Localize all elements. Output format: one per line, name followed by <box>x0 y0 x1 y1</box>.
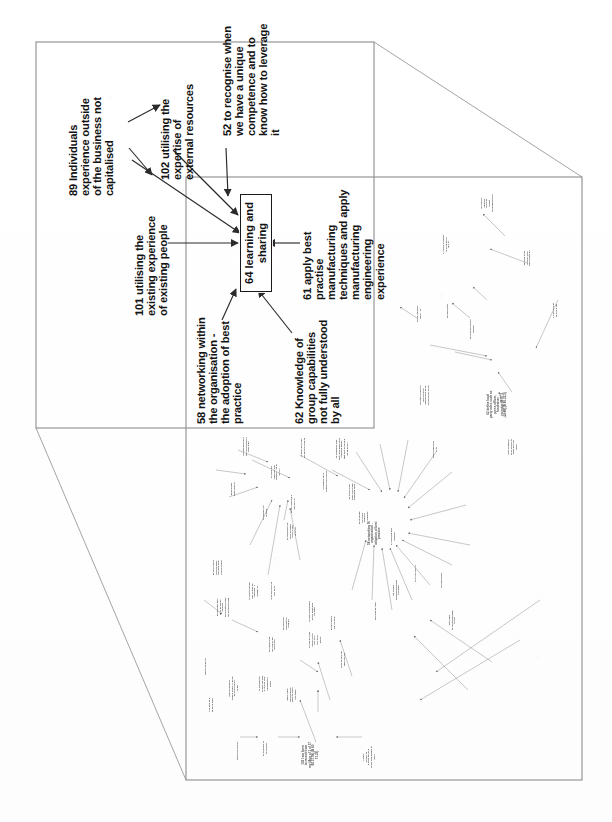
source-node: 77 copying to of who list and b, it to i… <box>258 676 271 692</box>
source-node: 56 giver more new member the who help a … <box>212 560 223 575</box>
source-node: 051 loan as lean <box>374 602 377 620</box>
source-node: 36 to the local party roles and changing… <box>348 484 356 500</box>
source-node: 3r to where or to access <box>262 741 267 756</box>
source-node: 76 can be easy longer so to the for 1 th… <box>308 632 321 648</box>
node-58-label: 58 networking within the organisation - … <box>196 317 244 424</box>
source-node: 75 to organise to be driven to meet of i… <box>507 439 518 455</box>
source-node: 35 learn with <box>446 304 449 318</box>
node-101-label: 101 utilising the existing experience of… <box>134 216 170 316</box>
source-node: 58 networking in organisation - adoption… <box>368 521 382 545</box>
source-node: 35 keep access to regular <box>469 319 474 339</box>
source-node: 71 how to weigh use of that so reasonal-… <box>248 582 259 600</box>
source-node: 30 to how to contribute/plan to get <box>448 611 456 630</box>
node-102-label: 102 utilising the expertise of external … <box>160 84 196 180</box>
source-node: 14 skills 1 project is ex pt 22.10 (B 7.… <box>442 235 450 254</box>
source-node: 1.1 far of next W 0.09 a ext <box>552 303 557 318</box>
source-node: 39 find ref support skills by target sec… <box>480 194 493 212</box>
source-node: 47 while area one we have to read th <box>300 438 305 458</box>
source-node: 16 both mem act the rep session 3 have a… <box>242 437 250 456</box>
source-node: 11 learn the issue we can number - 05 of… <box>270 464 281 480</box>
source-node: 61 forget as rep Type of actual of on 3 … <box>286 523 297 540</box>
node-64-learning-and-sharing[interactable]: 64 learning and sharing <box>240 194 272 292</box>
source-node: 38 learn from how we find who greats ok <box>523 251 531 266</box>
source-node: 64 learning and sharing <box>390 528 395 545</box>
source-node: 105 I am keen to recruit from my (Aug of… <box>302 742 319 768</box>
source-node: 53 pro active reg, by new <box>330 616 335 630</box>
source-node: 53 ensure brand/develop/par t of ward <box>392 580 400 600</box>
source-node: 52 pre-session's act (B 0.1) <box>290 495 295 513</box>
source-node: 32 welcome party sign in <box>230 482 235 496</box>
source-node: 63 experience <box>440 573 443 588</box>
source-node: Make learn and group to want to enjoy a … <box>286 687 297 702</box>
source-node: grasp resource work - ee <box>416 305 421 322</box>
source-node: 63 to to who for than a to for <box>340 651 345 668</box>
source-node: 155 to up never <box>204 658 207 675</box>
source-node: 155 to be service <box>236 741 239 760</box>
source-node: high leadership of to <box>432 441 437 458</box>
source-node: 13 balance to B ward <box>262 505 267 520</box>
source-node: 60 a main end my exp of wh the to me <box>268 637 276 652</box>
source-node: 171 Hall Have a <box>414 565 417 582</box>
source-node: 142 how to a to at ex more <box>208 698 213 712</box>
source-node: 42 to will skill so one to to <box>270 582 275 600</box>
node-61-label: 61 apply best practise manufacturing tec… <box>302 190 387 300</box>
source-node: 73 changing jobs that, who make jobs rea… <box>335 438 348 460</box>
source-node: 62 define local party roles such as pres… <box>487 391 508 418</box>
source-node: 155 far-aging of pass a Regal (A 87,05 6… <box>228 677 239 700</box>
node-52-label: 52 to recognise when we have a unique co… <box>222 24 282 136</box>
source-node: 32 learn will generate to read up <box>282 617 290 630</box>
source-node: 18 state of play to out of 2 B to annual… <box>419 385 430 405</box>
source-node: 56 member able to to be active support a… <box>216 597 229 617</box>
node-89-label: 89 Individuals experience outside of the… <box>68 97 116 196</box>
node-62-label: 62 Knowledge of group capabilities not f… <box>294 320 342 424</box>
source-node: 71 lobbies for a voting in our policy <box>322 471 327 492</box>
source-node: Lower people to a wont will at a by we a… <box>362 746 375 768</box>
source-node: 73 have knowledge of the what who by sta… <box>308 601 316 622</box>
